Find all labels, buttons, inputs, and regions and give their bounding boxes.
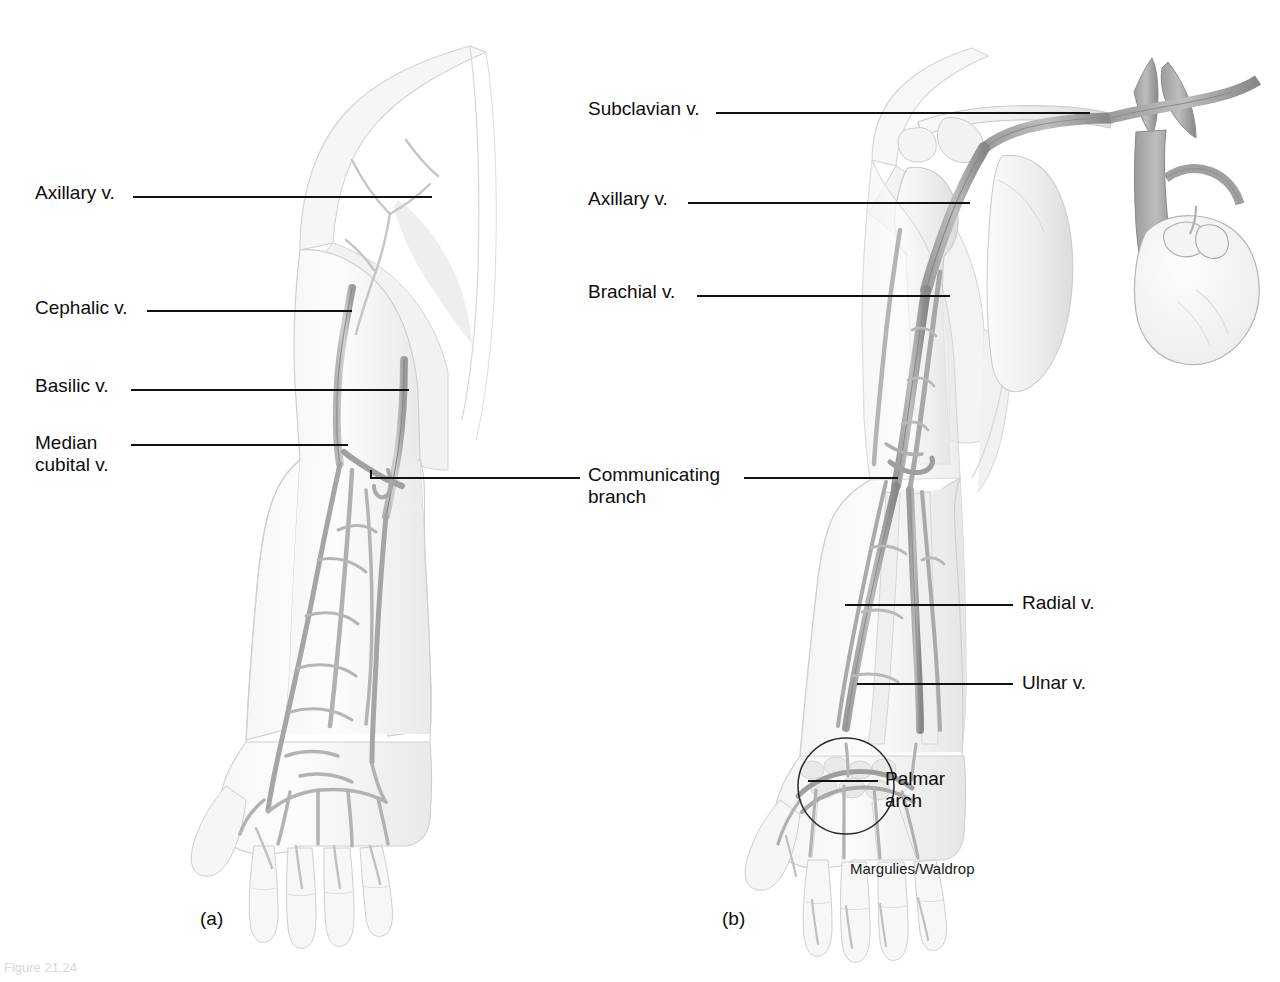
anatomy-figure: Axillary v. Cephalic v. Basilic v. Media…: [0, 0, 1280, 982]
panel-caption-a: (a): [200, 908, 223, 930]
label-cephalic-v: Cephalic v.: [35, 297, 128, 319]
panel-caption-b: (b): [722, 908, 745, 930]
label-communicating-branch: Communicating branch: [588, 464, 720, 508]
label-basilic-v: Basilic v.: [35, 375, 109, 397]
label-axillary-v-a: Axillary v.: [35, 182, 115, 204]
label-brachial-v: Brachial v.: [588, 281, 675, 303]
label-median-cubital-v: Median cubital v.: [35, 432, 109, 476]
label-axillary-v-b: Axillary v.: [588, 188, 668, 210]
panel-b-illustration: [745, 48, 1259, 962]
heart-and-great-veins: [1110, 58, 1259, 365]
panel-a-illustration: [191, 46, 496, 948]
scapula: [987, 155, 1073, 391]
subclavian-vein: [984, 118, 1110, 148]
artist-credit: Margulies/Waldrop: [850, 860, 975, 877]
label-palmar-arch: Palmar arch: [885, 768, 945, 812]
label-subclavian-v: Subclavian v.: [588, 98, 700, 120]
figure-footnote: Figure 21.24: [4, 960, 77, 975]
label-ulnar-v: Ulnar v.: [1022, 672, 1086, 694]
label-radial-v: Radial v.: [1022, 592, 1095, 614]
